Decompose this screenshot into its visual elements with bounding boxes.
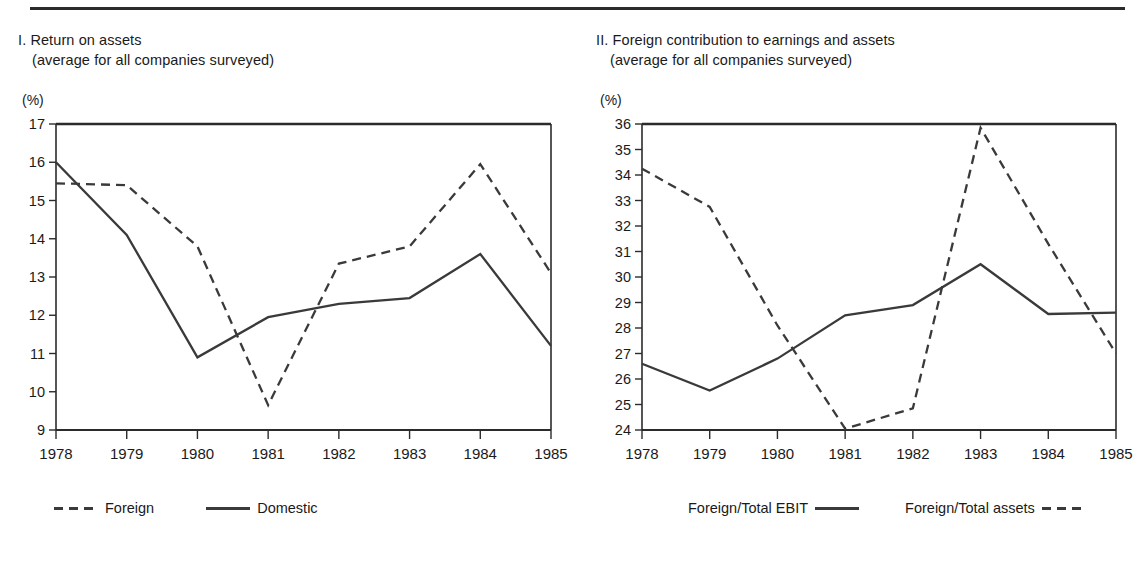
series-line-foreign-total-assets bbox=[642, 128, 1116, 429]
solid-line-swatch-icon bbox=[815, 507, 859, 510]
x-axis-tick-label: 1983 bbox=[964, 445, 997, 462]
dashed-line-swatch-icon bbox=[1042, 507, 1086, 510]
x-axis-tick-label: 1981 bbox=[828, 445, 861, 462]
x-axis-tick-label: 1983 bbox=[393, 445, 426, 462]
y-axis-tick-label: 33 bbox=[615, 193, 631, 209]
y-axis-tick-label: 27 bbox=[615, 346, 631, 362]
y-axis-unit: (%) bbox=[22, 92, 44, 108]
x-axis-tick-label: 1984 bbox=[464, 445, 497, 462]
y-axis-tick-label: 32 bbox=[615, 218, 631, 234]
x-axis-tick-label: 1981 bbox=[251, 445, 284, 462]
y-axis-unit: (%) bbox=[600, 92, 622, 108]
legend-label: Foreign bbox=[105, 500, 154, 516]
x-axis-tick-label: 1985 bbox=[1099, 445, 1132, 462]
legend-label: Foreign/Total assets bbox=[905, 500, 1035, 516]
panel-subtitle: (average for all companies surveyed) bbox=[18, 50, 578, 70]
legend-item-foreign-total-assets: Foreign/Total assets bbox=[905, 500, 1086, 516]
x-axis-tick-label: 1982 bbox=[322, 445, 355, 462]
panel-subtitle: (average for all companies surveyed) bbox=[596, 50, 1141, 70]
x-axis-tick-label: 1980 bbox=[181, 445, 214, 462]
legend-label: Domestic bbox=[257, 500, 317, 516]
x-axis-tick-label: 1979 bbox=[110, 445, 143, 462]
y-axis-tick-label: 13 bbox=[29, 269, 45, 285]
panel-title: II. Foreign contribution to earnings and… bbox=[596, 30, 1141, 50]
solid-line-swatch-icon bbox=[206, 507, 250, 510]
y-axis-tick-label: 28 bbox=[615, 320, 631, 336]
series-line-foreign-total-ebit bbox=[642, 264, 1116, 390]
series-line-foreign bbox=[56, 164, 551, 405]
legend-item-domestic: Domestic bbox=[206, 500, 317, 516]
panel-foreign-contribution: II. Foreign contribution to earnings and… bbox=[596, 30, 1141, 550]
x-axis-tick-label: 1978 bbox=[625, 445, 658, 462]
y-axis-tick-label: 17 bbox=[29, 116, 45, 132]
legend-item-foreign: Foreign bbox=[54, 500, 154, 516]
legend: Foreign/Total EBIT Foreign/Total assets bbox=[596, 500, 1141, 516]
x-axis-tick-label: 1985 bbox=[534, 445, 567, 462]
panel-caption: II. Foreign contribution to earnings and… bbox=[596, 30, 1141, 70]
panel-return-on-assets: I. Return on assets (average for all com… bbox=[18, 30, 578, 550]
y-axis-tick-label: 29 bbox=[615, 295, 631, 311]
y-axis-tick-label: 10 bbox=[29, 384, 45, 400]
x-axis-tick-label: 1984 bbox=[1032, 445, 1065, 462]
y-axis-tick-label: 26 bbox=[615, 371, 631, 387]
x-axis-tick-label: 1982 bbox=[896, 445, 929, 462]
series-line-domestic bbox=[56, 162, 551, 357]
y-axis-tick-label: 11 bbox=[30, 346, 45, 362]
legend-label: Foreign/Total EBIT bbox=[688, 500, 808, 516]
y-axis-tick-label: 16 bbox=[29, 154, 45, 170]
line-chart: 9101112131415161719781979198019811982198… bbox=[18, 118, 578, 468]
dashed-line-swatch-icon bbox=[54, 507, 98, 510]
x-axis-tick-label: 1979 bbox=[693, 445, 726, 462]
header-rule bbox=[30, 7, 1125, 10]
legend-item-foreign-total-ebit: Foreign/Total EBIT bbox=[688, 500, 859, 516]
x-axis-tick-label: 1978 bbox=[39, 445, 72, 462]
figure-page: I. Return on assets (average for all com… bbox=[0, 0, 1145, 571]
legend: Foreign Domestic bbox=[18, 500, 578, 516]
y-axis-tick-label: 36 bbox=[615, 116, 631, 132]
y-axis-tick-label: 14 bbox=[29, 231, 45, 247]
panel-caption: I. Return on assets (average for all com… bbox=[18, 30, 578, 70]
plot-area: 9101112131415161719781979198019811982198… bbox=[18, 118, 578, 468]
line-chart: 2425262728293031323334353619781979198019… bbox=[596, 118, 1141, 468]
panel-title: I. Return on assets bbox=[18, 30, 578, 50]
y-axis-tick-label: 24 bbox=[615, 422, 631, 438]
y-axis-tick-label: 15 bbox=[29, 193, 45, 209]
y-axis-tick-label: 30 bbox=[615, 269, 631, 285]
y-axis-tick-label: 9 bbox=[37, 422, 45, 438]
y-axis-tick-label: 35 bbox=[615, 142, 631, 158]
y-axis-tick-label: 31 bbox=[615, 244, 631, 260]
x-axis-tick-label: 1980 bbox=[761, 445, 794, 462]
y-axis-tick-label: 12 bbox=[29, 307, 45, 323]
y-axis-tick-label: 25 bbox=[615, 397, 631, 413]
y-axis-tick-label: 34 bbox=[615, 167, 631, 183]
plot-area: 2425262728293031323334353619781979198019… bbox=[596, 118, 1141, 468]
